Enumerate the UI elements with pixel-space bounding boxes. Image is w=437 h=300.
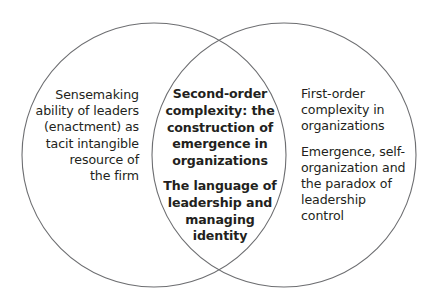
left-circle-label: Sensemaking ability of leaders (enactmen…	[29, 87, 139, 184]
right-circle-text-2: Emergence, self- organization and the pa…	[301, 144, 413, 225]
right-circle-label: First-order complexity in organizations …	[301, 86, 413, 225]
left-circle-text: Sensemaking ability of leaders (enactmen…	[29, 87, 139, 184]
intersection-text-1: Second-order complexity: the constructio…	[152, 86, 288, 170]
intersection-text-2: The language of leadership and managing …	[152, 178, 288, 245]
right-circle-text-1: First-order complexity in organizations	[301, 86, 413, 135]
intersection-label: Second-order complexity: the constructio…	[152, 86, 288, 245]
